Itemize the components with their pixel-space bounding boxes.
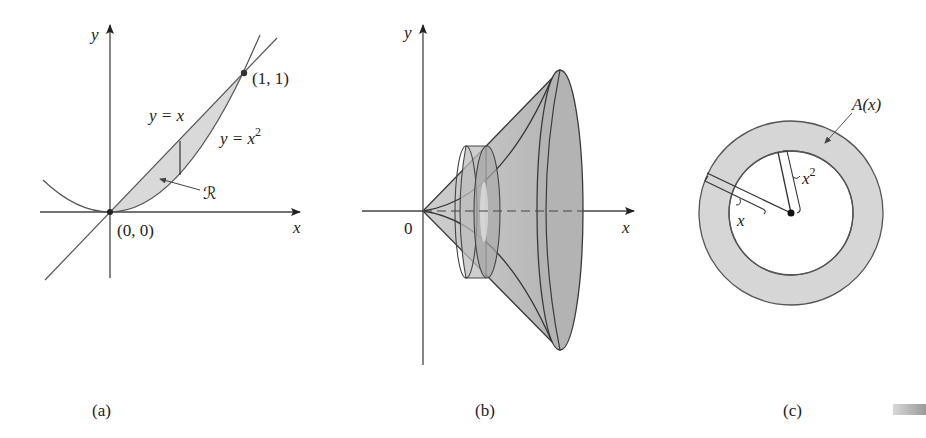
panel-c: A(x) x x2 (c) [699,95,883,420]
line-label: y = x [147,106,185,125]
caption-a: (a) [92,401,111,420]
panel-a: y x (1, 1) (0, 0) y = x y = x2 ℛ (a) [40,25,301,420]
inner-radius-brace [783,151,800,213]
caption-b: (b) [475,401,495,420]
point-origin [107,209,113,215]
axis-y-label-a: y [89,25,99,44]
inner-radius-label: x2 [801,165,816,188]
parabola-label: y = x2 [218,125,261,148]
outer-radius-label: x [736,211,745,230]
axis-x-label-a: x [292,218,301,237]
parabola-label-base: y = x [218,129,256,148]
parabola-label-exp: 2 [255,125,261,139]
panel-b: y x 0 (b) [362,23,634,420]
area-label: A(x) [851,95,882,114]
inner-radius-label-exp: 2 [810,165,816,179]
washer-hole-highlight [480,182,488,242]
point-origin-label: (0, 0) [117,221,154,240]
outer-radius-brace-tick [736,199,741,205]
point-intersection-label: (1, 1) [252,69,289,88]
origin-label-b: 0 [404,219,413,238]
center-point [788,210,795,217]
inner-radius-brace-tick [793,176,800,178]
cone-end-ellipse [537,70,583,350]
corner-gradient-tab [893,404,926,415]
axis-y-label-b: y [402,23,412,42]
figure-canvas: y x (1, 1) (0, 0) y = x y = x2 ℛ (a) y x… [0,0,926,438]
axis-x-label-b: x [621,218,630,237]
point-intersection [241,70,247,76]
caption-c: (c) [783,401,802,420]
region-label: ℛ [203,184,217,203]
